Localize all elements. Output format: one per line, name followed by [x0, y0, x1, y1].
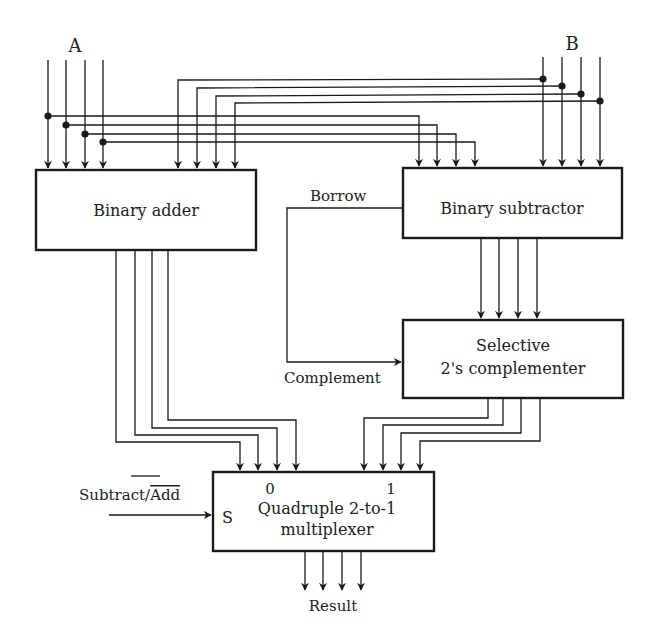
mux-select-pin: S: [222, 508, 233, 527]
binary-subtractor-block: Binary subtractor: [403, 168, 622, 238]
borrow-complement-wire: Borrow Complement: [284, 187, 403, 387]
complementer-label-line1: Selective: [476, 336, 550, 355]
mux-input1-label: 1: [386, 480, 396, 498]
binary-adder-label: Binary adder: [93, 201, 199, 220]
junction-dot: [99, 138, 106, 145]
binary-subtractor-label: Binary subtractor: [440, 199, 584, 218]
input-b-label: B: [565, 33, 578, 54]
adder-output-bus: [116, 251, 296, 470]
control-label: Subtract/Add: [79, 486, 181, 504]
binary-adder-block: Binary adder: [36, 170, 256, 250]
junction-dot: [558, 82, 565, 89]
result-bus: Result: [305, 552, 361, 615]
junction-dot: [596, 97, 603, 104]
complementer-label-line2: 2's complementer: [441, 359, 586, 378]
multiplexer-block: 0 1 S Quadruple 2-to-1 multiplexer: [213, 472, 434, 551]
circuit-diagram: A B Binary adder B: [0, 0, 656, 642]
result-label: Result: [309, 597, 357, 615]
junction-dot: [62, 121, 69, 128]
junction-dot: [539, 75, 546, 82]
borrow-label: Borrow: [310, 187, 366, 205]
input-b-bus: B: [178, 33, 604, 168]
mux-label-line2: multiplexer: [280, 520, 373, 539]
complementer-block: Selective 2's complementer: [403, 320, 623, 398]
subtractor-output-bus: [481, 239, 537, 318]
junction-dot: [44, 112, 51, 119]
input-a-label: A: [68, 35, 83, 56]
mux-label-line1: Quadruple 2-to-1: [258, 499, 396, 518]
junction-dot: [577, 90, 584, 97]
junction-dot: [81, 130, 88, 137]
complementer-output-bus: [364, 399, 540, 470]
complement-label: Complement: [284, 369, 381, 387]
mux-input0-label: 0: [265, 480, 275, 498]
subtract-add-control: Subtract/Add: [79, 476, 211, 515]
